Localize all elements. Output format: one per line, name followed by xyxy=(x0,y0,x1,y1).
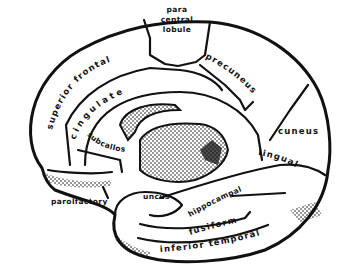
label-cuneus: cuneus xyxy=(278,126,319,136)
label-precuneus: precuneus xyxy=(204,51,259,96)
label-para: para xyxy=(167,5,188,14)
label-fusiform: fusiform xyxy=(188,215,239,237)
label-central: central xyxy=(161,15,194,24)
label-parolfactory: parolfactory xyxy=(51,197,108,206)
parolfactory-sulcus xyxy=(48,170,112,173)
label-hippocampal: hippocampal xyxy=(186,184,243,218)
label-uncus: uncus xyxy=(143,192,170,201)
label-inferior-temporal: inferior temporal xyxy=(159,227,261,254)
label-subcallosal: subcallosal xyxy=(0,0,126,154)
label-cingulate: cingulate xyxy=(68,85,127,140)
brain-medial-diagram: para central lobule superior frontal cin… xyxy=(0,0,349,270)
label-lobule: lobule xyxy=(163,25,192,34)
parolfactory-stipple xyxy=(42,172,112,188)
